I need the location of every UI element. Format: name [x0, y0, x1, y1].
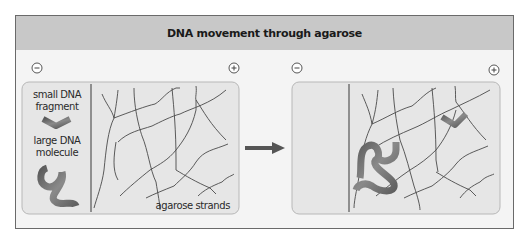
small-dna-label-line1: small DNA: [33, 89, 82, 100]
positive-electrode-icon: [229, 63, 239, 73]
negative-electrode-icon: [292, 63, 302, 73]
diagram-canvas: small DNA fragment large DNA molecule ag…: [0, 0, 524, 237]
agarose-strands-label: agarose strands: [156, 200, 231, 211]
right-gel-panel: [292, 63, 500, 214]
small-dna-label-line2: fragment: [35, 101, 79, 112]
large-dna-label-line2: molecule: [36, 147, 79, 158]
transition-arrow-icon: [245, 142, 285, 154]
positive-electrode-icon: [489, 65, 499, 75]
left-gel-panel: small DNA fragment large DNA molecule ag…: [22, 63, 239, 214]
large-dna-label-line1: large DNA: [34, 135, 82, 146]
negative-electrode-icon: [32, 63, 42, 73]
